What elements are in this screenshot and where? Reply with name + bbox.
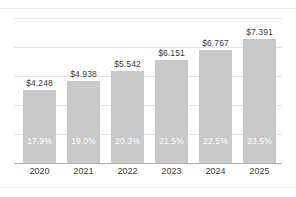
chart-screenshot: $4.248 17.9% $4.938 19.0% $5.542 20.3% $… — [0, 0, 296, 197]
bar-group-2022[interactable]: $5.542 20.3% — [111, 71, 144, 163]
bar-rect[interactable] — [199, 50, 232, 163]
bar-percent-label: 22.5% — [203, 136, 228, 146]
x-axis-labels: 2020 2021 2022 2023 2024 2025 — [14, 166, 282, 182]
bar-value-label: $6.151 — [158, 48, 185, 58]
bar-value-label: $7.391 — [246, 27, 273, 37]
bar-group-2025[interactable]: $7.391 23.5% — [243, 39, 276, 163]
bar-rect[interactable] — [111, 71, 144, 163]
bar-group-2020[interactable]: $4.248 17.9% — [23, 90, 56, 163]
bar-percent-label: 23.5% — [247, 136, 272, 146]
x-tick-label-2024: 2024 — [199, 166, 232, 176]
bar-value-label: $4.248 — [26, 78, 53, 88]
bar-percent-label: 19.0% — [71, 136, 96, 146]
x-tick-label-2023: 2023 — [155, 166, 188, 176]
bar-rect[interactable] — [23, 90, 56, 163]
bar-group-2024[interactable]: $6.767 22.5% — [199, 50, 232, 163]
bar-group-2021[interactable]: $4.938 19.0% — [67, 81, 100, 163]
x-tick-label-2022: 2022 — [111, 166, 144, 176]
x-tick-label-2020: 2020 — [23, 166, 56, 176]
bar-percent-label: 21.5% — [159, 136, 184, 146]
bar-value-label: $4.938 — [70, 69, 97, 79]
bar-rect[interactable] — [67, 81, 100, 163]
x-tick-label-2021: 2021 — [67, 166, 100, 176]
plot-area: $4.248 17.9% $4.938 19.0% $5.542 20.3% $… — [14, 18, 282, 164]
bar-value-label: $6.767 — [202, 38, 229, 48]
x-tick-label-2025: 2025 — [243, 166, 276, 176]
bar-percent-label: 20.3% — [115, 136, 140, 146]
bars-layer: $4.248 17.9% $4.938 19.0% $5.542 20.3% $… — [14, 18, 282, 164]
bar-value-label: $5.542 — [114, 59, 141, 69]
bar-rect[interactable] — [155, 60, 188, 163]
bar-group-2023[interactable]: $6.151 21.5% — [155, 60, 188, 163]
bar-percent-label: 17.9% — [27, 136, 52, 146]
